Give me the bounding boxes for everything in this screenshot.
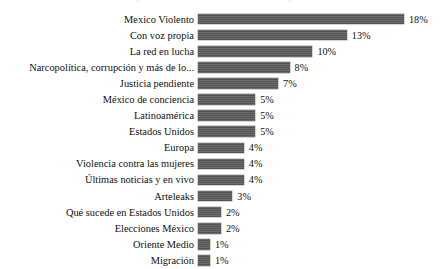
bar-track: 5% — [198, 124, 445, 140]
bar-row: Violencia contra las mujeres4% — [0, 156, 445, 172]
clipped-title-text: que no se alcanza a leer en el recorte s… — [0, 0, 445, 3]
bar — [198, 46, 312, 57]
bar-chart: que no se alcanza a leer en el recorte s… — [0, 0, 445, 269]
bar-track: 5% — [198, 91, 445, 107]
bar-category-label: Oriente Medio — [0, 239, 198, 250]
bar-category-label: Últimas noticias y en vivo — [0, 174, 198, 185]
bar-category-label: Violencia contra las mujeres — [0, 158, 198, 169]
bar-row: Europa4% — [0, 140, 445, 156]
bar-track: 4% — [198, 172, 445, 188]
bar-value-label: 4% — [244, 142, 263, 153]
bar-value-label: 8% — [290, 62, 309, 73]
bar — [198, 191, 232, 202]
bar — [198, 159, 244, 170]
bar — [198, 143, 244, 154]
bar-track: 4% — [198, 140, 445, 156]
bar-row: Justicia pendiente7% — [0, 75, 445, 91]
bar-category-label: Estados Unidos — [0, 126, 198, 137]
bar-track: 7% — [198, 75, 445, 91]
bar-value-label: 5% — [255, 126, 274, 137]
bar-track: 13% — [198, 27, 445, 43]
bar — [198, 14, 404, 25]
bar-row: La red en lucha10% — [0, 43, 445, 59]
bar-track: 2% — [198, 204, 445, 220]
bar-value-label: 10% — [312, 46, 336, 57]
bar-category-label: México de conciencia — [0, 94, 198, 105]
bar — [198, 110, 255, 121]
bar-value-label: 1% — [210, 239, 229, 250]
bar — [198, 239, 210, 250]
bar-value-label: 3% — [232, 191, 251, 202]
bar — [198, 126, 255, 137]
bar-row: México de conciencia5% — [0, 91, 445, 107]
chart-plot-area: Mexico Violento18%Con voz propia13%La re… — [0, 11, 445, 269]
bar-track: 10% — [198, 43, 445, 59]
bar-value-label: 18% — [404, 14, 428, 25]
bar-category-label: Europa — [0, 142, 198, 153]
bar — [198, 30, 347, 41]
bar-value-label: 5% — [255, 110, 274, 121]
bar-value-label: 1% — [210, 255, 229, 266]
bar-category-label: Mexico Violento — [0, 14, 198, 25]
bar-row: Narcopolítica, corrupción y más de lo...… — [0, 59, 445, 75]
bar-category-label: Elecciones México — [0, 223, 198, 234]
bar-row: Elecciones México2% — [0, 220, 445, 236]
bar-row: Mexico Violento18% — [0, 11, 445, 27]
bar-row: Migración1% — [0, 252, 445, 268]
bar-row: Arteleaks3% — [0, 188, 445, 204]
bar-row: Últimas noticias y en vivo4% — [0, 172, 445, 188]
bar-track: 1% — [198, 252, 445, 268]
bar-track: 2% — [198, 220, 445, 236]
bar-category-label: Con voz propia — [0, 30, 198, 41]
bar-track: 18% — [198, 11, 445, 27]
bar — [198, 223, 221, 234]
bar-value-label: 2% — [221, 207, 240, 218]
bar-track: 8% — [198, 59, 445, 75]
bar — [198, 78, 278, 89]
bar-category-label: Migración — [0, 255, 198, 266]
bar — [198, 175, 244, 186]
bar-category-label: La red en lucha — [0, 46, 198, 57]
bar-value-label: 4% — [244, 158, 263, 169]
bar-value-label: 4% — [244, 174, 263, 185]
bar — [198, 255, 210, 266]
bar-category-label: Justicia pendiente — [0, 78, 198, 89]
bar-value-label: 5% — [255, 94, 274, 105]
bar-value-label: 13% — [347, 30, 371, 41]
bar-row: Con voz propia13% — [0, 27, 445, 43]
bar-row: Qué sucede en Estados Unidos2% — [0, 204, 445, 220]
bar-row: Latinoamérica5% — [0, 108, 445, 124]
bar-value-label: 2% — [221, 223, 240, 234]
bar — [198, 207, 221, 218]
bar-category-label: Arteleaks — [0, 191, 198, 202]
bar-track: 3% — [198, 188, 445, 204]
bar-value-label: 7% — [278, 78, 297, 89]
bar-row: Oriente Medio1% — [0, 236, 445, 252]
bar-row: Estados Unidos5% — [0, 124, 445, 140]
bar — [198, 62, 290, 73]
bar-track: 5% — [198, 108, 445, 124]
bar-track: 4% — [198, 156, 445, 172]
bar-category-label: Latinoamérica — [0, 110, 198, 121]
bar-track: 1% — [198, 236, 445, 252]
bar-category-label: Qué sucede en Estados Unidos — [0, 207, 198, 218]
bar — [198, 94, 255, 105]
bar-category-label: Narcopolítica, corrupción y más de lo... — [0, 62, 198, 73]
